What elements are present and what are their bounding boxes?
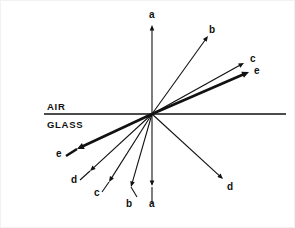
ray-label-ray-e-upper: e [254,66,260,76]
ray-label-ray-d-lower-left: d [71,175,77,185]
ray-label-ray-c-upper: c [250,54,256,64]
ray-diagram-canvas [1,1,295,228]
ray-a-upper-arrowhead [150,25,155,31]
tail-c-lower [102,182,109,192]
ray-label-ray-e-lower-left: e [56,149,62,159]
tail-d-lower [80,171,90,180]
ray-d-lower-right-shaft [152,114,220,176]
medium-label-air: AIR [47,102,65,112]
ray-a-lower-arrowhead [150,181,155,187]
ray-label-ray-b-upper: b [209,25,215,35]
ray-diagram-figure: AIR GLASS abcededcba [0,0,295,228]
ray-c-upper-shaft [152,65,240,114]
ray-label-ray-a-upper: a [149,10,155,20]
ray-c-lower-left-arrowhead [109,176,114,182]
tail-b-lower [131,187,137,197]
tail-e-lower [66,149,77,156]
ray-label-ray-a-lower: a [149,199,155,209]
ray-label-ray-c-lower-left: c [94,188,100,198]
ray-b-lower-left-shaft [132,114,152,183]
ray-label-ray-b-lower-left: b [126,199,132,209]
medium-label-glass: GLASS [47,120,83,130]
ray-b-upper-arrowhead [203,36,208,42]
ray-label-ray-d-lower-right: d [227,182,233,192]
ray-b-lower-left-arrowhead [130,181,134,187]
rays-group [77,25,249,187]
